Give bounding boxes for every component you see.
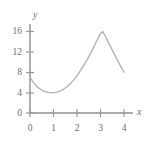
- x-axis-label: x: [137, 107, 141, 117]
- y-tick-label-0: 0: [2, 109, 22, 119]
- y-tick-label-4: 4: [2, 89, 22, 99]
- y-tick-label-16: 16: [2, 27, 22, 37]
- data-curve: [30, 32, 124, 93]
- x-tick-label-2: 2: [70, 124, 84, 134]
- y-axis-label: y: [33, 10, 37, 20]
- y-tick-label-8: 8: [2, 68, 22, 78]
- x-tick-label-4: 4: [117, 124, 131, 134]
- chart-figure: 16 12 8 4 0 0 1 2 3 4 y x: [0, 0, 149, 148]
- y-tick-label-12: 12: [2, 48, 22, 58]
- x-tick-label-1: 1: [47, 124, 61, 134]
- x-tick-label-0: 0: [23, 124, 37, 134]
- x-tick-label-3: 3: [94, 124, 108, 134]
